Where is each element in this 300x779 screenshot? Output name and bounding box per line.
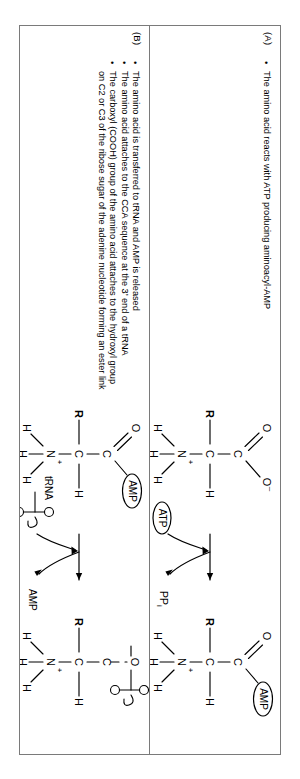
atom-h-n2-b1: H [20,450,30,458]
panel-b-label: (B) [133,32,144,45]
atom-h-n1: H [152,424,164,432]
atom-o-minus: O [261,478,273,487]
charge-plus-b2: + [56,668,65,673]
atom-c-carboxyl-b2: C [102,658,114,666]
atom-h-n1-2: H [152,632,164,640]
panel-a-label: (A) [263,32,274,45]
atom-n-b1: N [46,450,58,458]
charge-plus-b1: + [56,460,65,465]
atom-o-ester: O [130,658,142,667]
panel-a-bullet-1-text: The amino acid reacts with ATP producing… [262,71,272,309]
bullet-dot-icon: • [260,61,272,64]
atom-h-alpha-2: H [204,698,216,706]
atom-n: N [176,450,188,458]
atom-r-group-b2: R [74,618,86,626]
panel-b-arrow-group [35,534,83,580]
charge-plus-a: + [186,460,195,465]
bullet-dot-icon: • [130,61,142,64]
atom-h-alpha-b2: H [74,698,86,706]
charge-plus-a2: + [186,668,195,673]
atom-r-group-b1: R [74,410,86,418]
atom-n-b2: N [46,658,58,666]
atom-h-alpha-b1: H [74,490,86,498]
atom-h-n1-b1: H [22,424,34,432]
atom-o-double: O [261,424,273,433]
panel-a-bullet-list: • The amino acid reacts with ATP produci… [260,60,272,390]
amp-label-b-left: AMP [127,480,138,502]
bullet-dot-icon: • [118,61,130,64]
panel-b-bullet-1: • The amino acid is transferred to tRNA … [130,60,142,390]
panel-b-bullet-1-text: The amino acid is transferred to tRNA an… [132,71,142,311]
panel-b-bullet-list: • The amino acid is transferred to tRNA … [95,60,141,390]
panel-b-reaction-diagram: C C N R H O + H H H AMP [20,384,150,754]
atom-c-alpha-2: C [204,658,216,666]
trna-cloverleaf-product-icon [111,670,149,705]
panel-a-svg: C C N R H O O – + H H H [150,384,280,754]
trna-input-label: tRNA [44,476,55,500]
atom-h-n2-b2: H [20,658,30,666]
atom-r-group-2: R [204,618,216,626]
panel-b-bullet-2-text: The amino acid attaches to the CCA seque… [120,71,130,356]
panel-a-reaction-diagram: C C N R H O O – + H H H [151,384,281,754]
panel-b: (B) • The amino acid is transferred to t… [20,26,150,754]
atom-h-n1-b2: H [22,632,34,640]
atom-h-alpha: H [204,490,216,498]
panel-b-svg: C C N R H O + H H H AMP [20,384,150,754]
panel-b-bullet-3-text: The carboxyl (COOH) group of the amino a… [97,71,119,390]
ppi-label: PP [158,591,170,605]
atp-label: ATP [157,509,168,528]
atom-h-n3-b1: H [22,476,34,484]
figure-page: (A) • The amino acid reacts with ATP pro… [0,0,300,779]
atom-n-2: N [176,658,188,666]
atom-h-n3: H [152,476,164,484]
atom-c-alpha-b1: C [74,450,86,458]
atom-o-double-2: O [261,632,273,641]
panel-a: (A) • The amino acid reacts with ATP pro… [150,26,281,754]
figure-frame: (A) • The amino acid reacts with ATP pro… [19,25,281,755]
rotated-figure-wrapper: (A) • The amino acid reacts with ATP pro… [19,25,281,755]
atom-o-double-b1: O [131,424,143,433]
atom-h-n3-b2: H [22,684,34,692]
atom-c-alpha: C [204,450,216,458]
bullet-dot-icon: • [107,61,119,64]
atom-c-carboxyl-2: C [232,658,244,666]
atom-c-carboxyl-b1: C [102,450,114,458]
atom-c-carboxyl: C [232,450,244,458]
atom-c-alpha-b2: C [74,658,86,666]
atom-h-n2-2: H [150,658,160,666]
charge-minus: – [266,487,275,492]
panel-b-bullet-3: • The carboxyl (COOH) group of the amino… [95,60,118,390]
amp-output-label: AMP [28,589,39,611]
panel-b-bullet-2: • The amino acid attaches to the CCA seq… [118,60,130,390]
amp-label-a: AMP [258,688,269,710]
panel-a-bullet-1: • The amino acid reacts with ATP produci… [260,60,272,390]
atom-r-group: R [204,410,216,418]
atom-h-n3-2: H [152,684,164,692]
atom-h-n2: H [150,450,160,458]
ppi-subscript: i [155,605,164,607]
